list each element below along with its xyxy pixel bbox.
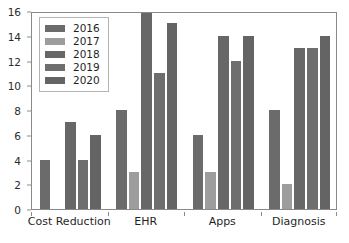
x-axis-tick-mark (336, 212, 337, 216)
y-axis-tick-label: 10 (8, 81, 21, 92)
x-axis-tick-mark (261, 212, 262, 216)
x-axis-tick-mark (31, 212, 32, 216)
legend-swatch-icon (45, 38, 65, 45)
bar (65, 122, 76, 209)
legend-swatch-icon (45, 64, 65, 71)
bar (78, 160, 89, 210)
x-axis-tick-mark (184, 212, 185, 216)
bar (116, 110, 127, 209)
y-axis: 0246810121416 (0, 12, 27, 210)
legend-item-label: 2018 (73, 49, 100, 60)
y-axis-tick-label: 14 (8, 32, 21, 43)
legend-item-label: 2017 (73, 36, 100, 47)
legend-item-label: 2016 (73, 23, 100, 34)
legend-item[interactable]: 2018 (45, 48, 100, 61)
y-axis-tick-label: 6 (14, 131, 21, 142)
bar (269, 110, 280, 209)
legend-swatch-icon (45, 77, 65, 84)
y-axis-tick-label: 8 (14, 106, 21, 117)
x-axis: Cost ReductionEHRAppsDiagnosis (31, 212, 337, 234)
bar (154, 73, 165, 209)
bar (40, 160, 51, 210)
legend-item[interactable]: 2017 (45, 35, 100, 48)
bar (129, 172, 140, 209)
legend-item-label: 2019 (73, 62, 100, 73)
bar (231, 61, 242, 210)
x-axis-tick-label: EHR (134, 216, 157, 227)
y-axis-tick-label: 0 (14, 205, 21, 216)
x-axis-tick-mark (108, 212, 109, 216)
bar (90, 135, 101, 209)
x-axis-tick-label: Diagnosis (272, 216, 325, 227)
legend-item[interactable]: 2019 (45, 61, 100, 74)
y-axis-tick-label: 12 (8, 56, 21, 67)
plot-area: 20162017201820192020 (31, 12, 337, 210)
bar-chart: 0246810121416 20162017201820192020 Cost … (0, 0, 349, 243)
bar (320, 36, 331, 209)
bar (307, 48, 318, 209)
bar (141, 12, 152, 209)
legend-item-label: 2020 (73, 75, 100, 86)
y-axis-tick-label: 4 (14, 155, 21, 166)
legend-item[interactable]: 2016 (45, 22, 100, 35)
legend-item[interactable]: 2020 (45, 74, 100, 87)
legend-swatch-icon (45, 25, 65, 32)
bar (243, 36, 254, 209)
y-axis-tick-label: 16 (8, 7, 21, 18)
legend: 20162017201820192020 (39, 17, 109, 92)
x-axis-tick-label: Apps (209, 216, 236, 227)
legend-swatch-icon (45, 51, 65, 58)
bar (205, 172, 216, 209)
bar (167, 23, 178, 209)
bar (218, 36, 229, 209)
bar (193, 135, 204, 209)
bar (294, 48, 305, 209)
bar (282, 184, 293, 209)
y-axis-tick-label: 2 (14, 180, 21, 191)
x-axis-tick-label: Cost Reduction (28, 216, 111, 227)
